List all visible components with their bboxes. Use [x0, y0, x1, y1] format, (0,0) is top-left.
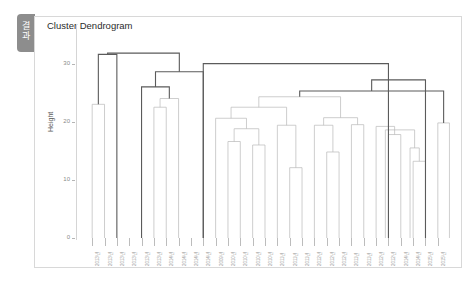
- x-tick-label: 2011년: [353, 253, 359, 266]
- x-tick-mark: [253, 238, 254, 246]
- x-tick-mark: [364, 238, 365, 246]
- dendrogram-links: [92, 53, 449, 238]
- dendrogram-svg: [76, 24, 452, 240]
- dendrogram-link: [327, 152, 339, 238]
- dendrogram-link: [277, 125, 296, 238]
- y-tick-mark: [72, 238, 75, 239]
- y-tick-label: 0: [52, 234, 70, 240]
- x-tick-label: 2014년: [193, 252, 199, 266]
- dendrogram-link: [92, 104, 104, 238]
- x-tick-mark: [401, 238, 402, 246]
- dendrogram-link: [228, 142, 240, 238]
- dendrogram-link: [351, 125, 363, 238]
- x-tick-mark: [438, 238, 439, 246]
- y-tick-label: 30: [52, 60, 70, 66]
- x-tick-label: 2010년: [242, 252, 248, 266]
- dendrogram-link: [154, 107, 166, 238]
- x-tick-label: 2012년: [341, 252, 347, 266]
- x-tick-mark: [105, 238, 106, 246]
- x-tick-mark: [129, 238, 130, 246]
- x-tick-mark: [376, 238, 377, 246]
- dendrogram-link: [216, 118, 247, 238]
- dendrogram-link: [314, 125, 333, 238]
- x-tick-label: 2011년: [292, 253, 298, 266]
- x-tick-label: 2010년: [267, 252, 273, 266]
- dendrogram-link: [413, 161, 425, 238]
- dendrogram-link: [231, 107, 287, 125]
- x-tick-label: 2014년: [205, 252, 211, 266]
- y-tick-mark: [72, 180, 75, 181]
- dendrogram-link: [253, 145, 265, 238]
- x-tick-label: 2012년: [378, 252, 384, 266]
- x-tick-mark: [265, 238, 266, 246]
- x-tick-mark: [302, 238, 303, 246]
- dendrogram-link: [160, 99, 179, 239]
- x-tick-label: 2012년: [329, 252, 335, 266]
- x-tick-label: 2010년: [255, 252, 261, 266]
- x-tick-mark: [290, 238, 291, 246]
- x-tick-label: 2013년: [131, 252, 137, 266]
- x-tick-label: 2011년: [279, 253, 285, 266]
- x-tick-label: 2014년: [415, 252, 421, 266]
- x-tick-label: 2015년: [427, 252, 433, 266]
- x-tick-mark: [425, 238, 426, 246]
- x-tick-mark: [142, 238, 143, 246]
- dendrogram-link: [300, 91, 444, 123]
- x-tick-label: 2015년: [440, 252, 446, 266]
- x-tick-mark: [179, 238, 180, 246]
- x-tick-label: 2013년: [119, 252, 125, 266]
- screenshot-canvas: 결 과 Cluster Dendrogram Height 0102030 20…: [0, 0, 476, 288]
- result-tab[interactable]: 결 과: [17, 14, 35, 52]
- x-tick-mark: [191, 238, 192, 246]
- x-tick-label: 2010년: [230, 252, 236, 266]
- dendrogram-link: [156, 72, 204, 238]
- y-tick-label: 10: [52, 176, 70, 182]
- x-tick-mark: [413, 238, 414, 246]
- x-tick-label: 2012년: [316, 252, 322, 266]
- x-tick-mark: [92, 238, 93, 246]
- x-tick-mark: [166, 238, 167, 246]
- result-tab-label-line1: 결: [17, 21, 35, 31]
- dendrogram-link: [388, 135, 400, 238]
- x-tick-label: 2014년: [403, 252, 409, 266]
- x-tick-mark: [154, 238, 155, 246]
- dendrogram-link: [438, 123, 450, 238]
- x-tick-mark: [216, 238, 217, 246]
- dendrogram-link: [290, 168, 302, 238]
- x-tick-mark: [388, 238, 389, 246]
- x-tick-label: 2014년: [168, 252, 174, 266]
- x-tick-mark: [351, 238, 352, 246]
- y-tick-mark: [72, 122, 75, 123]
- x-tick-mark: [314, 238, 315, 246]
- dendrogram-link: [234, 129, 259, 145]
- x-tick-label: 2013년: [156, 252, 162, 266]
- dendrogram-link: [324, 118, 358, 126]
- dendrogram-link: [372, 80, 426, 238]
- x-tick-label: 2013년: [107, 252, 113, 266]
- x-tick-label: 2009년: [218, 252, 224, 266]
- x-tick-mark: [228, 238, 229, 246]
- y-tick-mark: [72, 64, 75, 65]
- dendrogram-link: [98, 54, 117, 238]
- dendrogram-link: [142, 87, 170, 238]
- x-tick-mark: [277, 238, 278, 246]
- dendrogram-panel: [76, 24, 452, 240]
- x-tick-label: 2014년: [181, 252, 187, 266]
- x-tick-label: 2013년: [94, 252, 100, 266]
- x-tick-mark: [117, 238, 118, 246]
- x-tick-mark: [339, 238, 340, 246]
- x-tick-label: 2013년: [144, 252, 150, 266]
- x-tick-label: 2011년: [366, 253, 372, 266]
- x-tick-label: 2011년: [304, 253, 310, 266]
- x-tick-label: 2012년: [390, 252, 396, 266]
- result-tab-label-line2: 과: [17, 31, 35, 41]
- x-tick-mark: [240, 238, 241, 246]
- y-tick-label: 20: [52, 118, 70, 124]
- dendrogram-link: [108, 53, 180, 72]
- x-tick-mark: [327, 238, 328, 246]
- x-tick-mark: [203, 238, 204, 246]
